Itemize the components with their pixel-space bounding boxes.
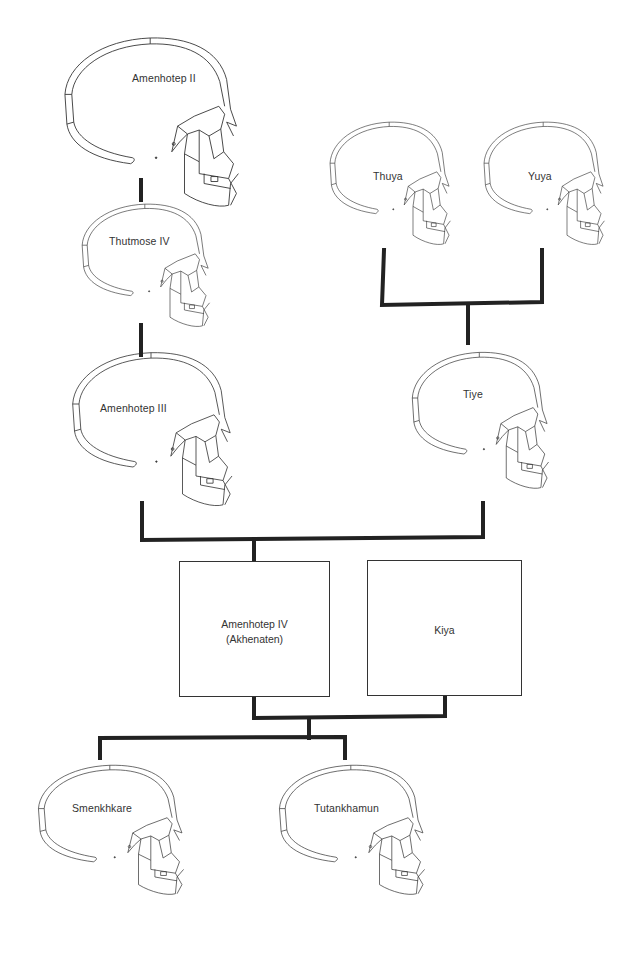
label-kiya: Kiya <box>368 623 521 638</box>
family-tree-diagram <box>0 0 640 958</box>
box-akhenaten: Amenhotep IV (Akhenaten) <box>179 561 330 697</box>
skull-amenhotep-ii <box>65 38 238 206</box>
box-kiya: Kiya <box>367 560 522 696</box>
line-children <box>100 737 345 758</box>
label-smenkhkare: Smenkhkare <box>72 802 132 814</box>
line-akhenaten-kiya <box>254 697 445 718</box>
skull-amenhotep-iii <box>73 353 232 506</box>
label-thutmose-iv: Thutmose IV <box>109 235 170 247</box>
label-amenhotep-iii: Amenhotep III <box>100 402 167 414</box>
label-yuya: Yuya <box>528 170 552 182</box>
skull-thutmose-iv <box>82 204 209 326</box>
skull-tutankhamun <box>279 765 424 894</box>
label-thuya: Thuya <box>373 170 403 182</box>
skull-tiye <box>412 352 548 488</box>
line-thuya-yuya <box>382 250 542 305</box>
skull-smenkhkare <box>38 765 183 894</box>
line-amenhotepiii-tiye <box>142 503 483 540</box>
label-amenhotep-ii: Amenhotep II <box>132 72 196 84</box>
label-tiye: Tiye <box>463 388 483 400</box>
label-akhenaten-alias: (Akhenaten) <box>180 632 329 647</box>
skull-yuya <box>484 122 604 244</box>
label-tutankhamun: Tutankhamun <box>314 802 379 814</box>
label-akhenaten-name: Amenhotep IV <box>180 617 329 632</box>
skull-thuya <box>330 122 450 244</box>
